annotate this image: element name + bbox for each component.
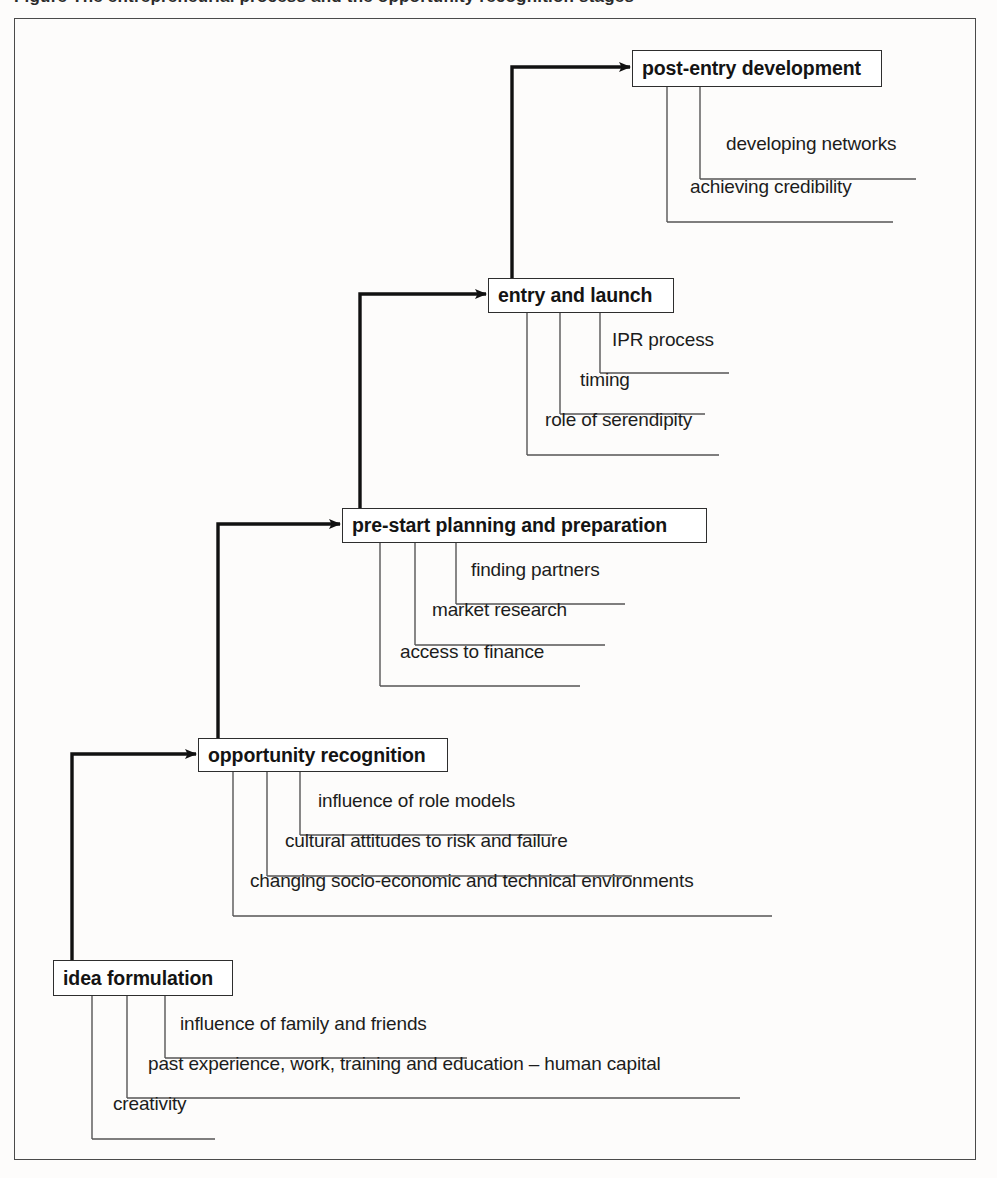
stage-label-entry-and-launch: entry and launch: [498, 284, 652, 307]
sub-item-label: role of serendipity: [545, 409, 692, 431]
sub-item-label: influence of role models: [318, 790, 515, 812]
sub-item-label: IPR process: [612, 329, 714, 351]
sub-item-label: achieving credibility: [690, 176, 852, 198]
stage-label-idea-formulation: idea formulation: [63, 967, 213, 990]
figure-caption: Figure The entrepreneurial process and t…: [14, 0, 974, 9]
stage-box-post-entry-development[interactable]: post-entry development: [632, 50, 882, 87]
sub-item-label: changing socio-economic and technical en…: [250, 870, 693, 892]
sub-item-label: creativity: [113, 1093, 186, 1115]
sub-item-label: timing: [580, 369, 630, 391]
sub-item-label: finding partners: [471, 559, 600, 581]
sub-item-label: influence of family and friends: [180, 1013, 427, 1035]
stage-label-pre-start-planning-and-preparation: pre-start planning and preparation: [352, 514, 667, 537]
stage-box-pre-start-planning-and-preparation[interactable]: pre-start planning and preparation: [342, 508, 707, 543]
stage-label-post-entry-development: post-entry development: [642, 57, 861, 80]
diagram-page: Figure The entrepreneurial process and t…: [0, 0, 997, 1178]
sub-item-label: past experience, work, training and educ…: [148, 1053, 661, 1075]
sub-item-label: market research: [432, 599, 567, 621]
stage-box-opportunity-recognition[interactable]: opportunity recognition: [198, 738, 448, 772]
sub-item-label: developing networks: [726, 133, 896, 155]
sub-item-label: cultural attitudes to risk and failure: [285, 830, 568, 852]
stage-box-entry-and-launch[interactable]: entry and launch: [488, 278, 674, 313]
stage-box-idea-formulation[interactable]: idea formulation: [53, 960, 233, 996]
stage-label-opportunity-recognition: opportunity recognition: [208, 744, 426, 767]
sub-item-label: access to finance: [400, 641, 544, 663]
